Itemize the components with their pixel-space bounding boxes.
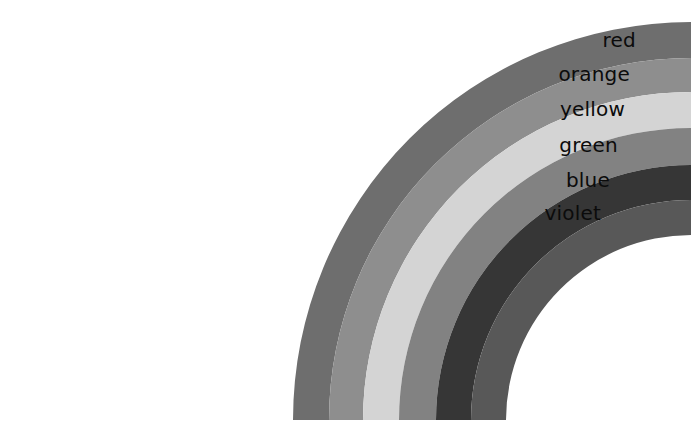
band-label-orange: orange [558, 62, 630, 86]
band-label-violet: violet [544, 201, 601, 225]
band-label-yellow: yellow [560, 97, 625, 121]
rainbow-arc-canvas: redorangeyellowgreenblueviolet [0, 0, 691, 446]
band-label-blue: blue [566, 168, 610, 192]
band-label-red: red [603, 28, 636, 52]
band-label-green: green [559, 133, 618, 157]
rainbow-figure: redorangeyellowgreenblueviolet [0, 0, 691, 446]
